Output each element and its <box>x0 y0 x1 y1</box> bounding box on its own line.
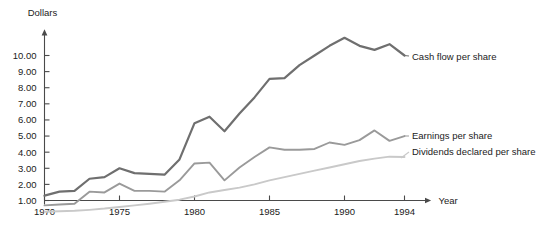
series-line-1 <box>45 130 405 205</box>
y-tick-label: 1.00 <box>18 195 37 206</box>
series-label-2: Dividends declared per share <box>412 146 536 157</box>
x-tick-label: 1994 <box>394 206 415 217</box>
y-tick-label: 8.00 <box>18 82 37 93</box>
series-line-2 <box>45 157 405 212</box>
line-chart: 1.002.003.004.005.006.007.008.009.0010.0… <box>0 0 559 245</box>
x-tick-label: 1985 <box>259 206 280 217</box>
y-tick-label: 3.00 <box>18 163 37 174</box>
y-tick-label: 10.00 <box>13 50 37 61</box>
x-tick-label: 1980 <box>184 206 205 217</box>
y-tick-label: 4.00 <box>18 147 37 158</box>
series-line-0 <box>45 38 405 196</box>
series-leader-line-0 <box>405 56 410 57</box>
y-axis-title: Dollars <box>28 7 58 18</box>
y-tick-label: 7.00 <box>18 98 37 109</box>
x-tick-label: 1990 <box>334 206 355 217</box>
y-tick-label: 5.00 <box>18 130 37 141</box>
series-label-1: Earnings per share <box>412 130 492 141</box>
series-label-0: Cash flow per share <box>412 51 496 62</box>
chart-container: 1.002.003.004.005.006.007.008.009.0010.0… <box>0 0 559 245</box>
x-axis-title: Year <box>439 195 458 206</box>
y-tick-label: 2.00 <box>18 179 37 190</box>
y-tick-label: 9.00 <box>18 66 37 77</box>
y-tick-label: 6.00 <box>18 114 37 125</box>
